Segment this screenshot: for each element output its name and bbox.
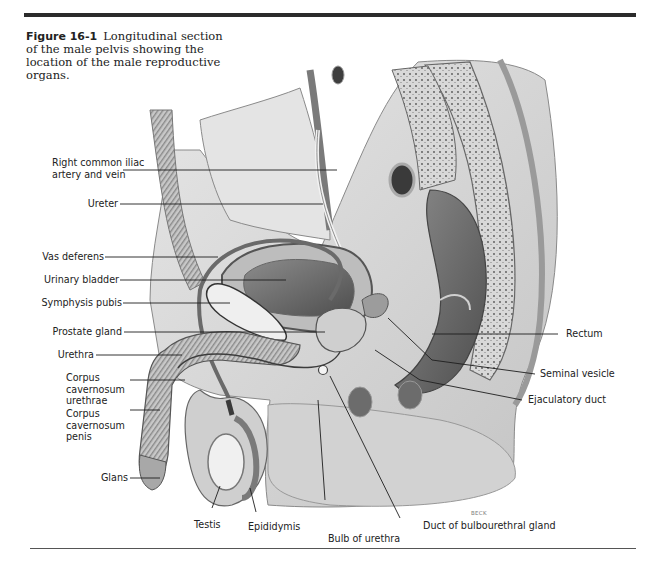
- label-corpus-cavernosum-urethrae: Corpus cavernosum urethrae: [66, 372, 125, 407]
- sphincter-right: [398, 381, 422, 409]
- label-duct-of-bulbourethral-gland: Duct of bulbourethral gland: [423, 520, 556, 532]
- label-epididymis: Epididymis: [248, 521, 300, 533]
- label-urinary-bladder: Urinary bladder: [30, 274, 119, 286]
- sigmoid-colon: [390, 164, 414, 196]
- bottom-rule: [30, 548, 636, 549]
- label-vas-deferens: Vas deferens: [30, 251, 104, 263]
- label-bulb-of-urethra: Bulb of urethra: [328, 533, 400, 545]
- pelvis-illustration: [0, 0, 653, 577]
- label-ureter: Ureter: [60, 198, 118, 210]
- label-testis: Testis: [194, 519, 221, 531]
- artist-credit: BECK: [471, 510, 487, 516]
- iliac-vessel-section: [332, 66, 344, 84]
- label-rectum: Rectum: [566, 328, 603, 340]
- bulbourethral-gland: [319, 366, 328, 375]
- label-corpus-cavernosum-penis: Corpus cavernosum penis: [66, 408, 125, 443]
- label-symphysis-pubis: Symphysis pubis: [30, 297, 122, 309]
- label-urethra: Urethra: [30, 349, 94, 361]
- label-ejaculatory-duct: Ejaculatory duct: [528, 394, 606, 406]
- label-seminal-vesicle: Seminal vesicle: [540, 368, 615, 380]
- label-glans: Glans: [70, 472, 128, 484]
- label-right-common-iliac: Right common iliac artery and vein: [52, 157, 120, 180]
- sphincter-left: [348, 387, 372, 417]
- label-prostate-gland: Prostate gland: [30, 326, 122, 338]
- testis: [208, 434, 244, 490]
